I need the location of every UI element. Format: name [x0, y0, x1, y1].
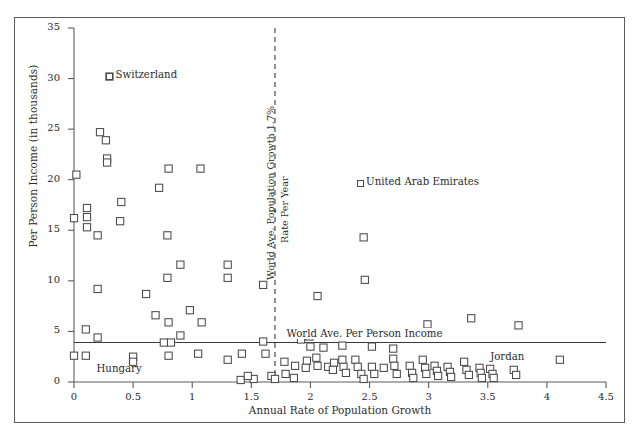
data-point: [380, 364, 387, 371]
annotation-jordan: Jordan: [490, 351, 524, 362]
x-tick-label-2: 1: [172, 391, 212, 402]
data-point: [465, 371, 472, 378]
data-point: [393, 370, 400, 377]
data-point: [339, 356, 346, 363]
data-point: [478, 374, 485, 381]
data-point: [177, 261, 184, 268]
data-point: [423, 370, 430, 377]
data-point: [342, 369, 349, 376]
x-tick-label-1: 0.5: [113, 391, 153, 402]
data-point: [448, 373, 455, 380]
data-point: [156, 184, 163, 191]
data-point: [83, 214, 90, 221]
data-point: [390, 345, 397, 352]
data-point: [262, 350, 269, 357]
x-tick-label-4: 2: [290, 391, 330, 402]
annotation-switzerland: Switzerland: [115, 69, 177, 80]
x-tick-label-6: 3: [409, 391, 449, 402]
data-point: [330, 359, 337, 366]
data-point: [361, 276, 368, 283]
data-point: [291, 362, 298, 369]
data-point: [290, 374, 297, 381]
world-avg-per-person-income-label: World Ave. Per Person Income: [284, 328, 444, 339]
data-point: [164, 274, 171, 281]
world-avg-population-growth-label: World Ave. Population Growth 1.7%: [265, 106, 276, 280]
data-point: [307, 343, 314, 350]
data-point: [461, 358, 468, 365]
scatter-plot: [0, 0, 641, 442]
data-point: [371, 370, 378, 377]
data-point: [354, 363, 361, 370]
data-point: [406, 362, 413, 369]
data-point: [165, 319, 172, 326]
data-point: [102, 137, 109, 144]
data-point: [94, 334, 101, 341]
data-point: [82, 352, 89, 359]
data-point: [104, 159, 111, 166]
data-point: [83, 204, 90, 211]
data-point: [435, 372, 442, 379]
data-point: [352, 356, 359, 363]
data-point: [96, 129, 103, 136]
data-point: [339, 342, 346, 349]
data-point: [167, 339, 174, 346]
data-point: [390, 355, 397, 362]
data-point: [73, 171, 80, 178]
x-tick-label-3: 1.5: [231, 391, 271, 402]
data-point: [197, 165, 204, 172]
annotation-hungary: Hungary: [96, 363, 141, 374]
y-tick-label-7: 35: [28, 21, 60, 32]
data-point: [513, 371, 520, 378]
data-point: [271, 375, 278, 382]
data-point: [224, 274, 231, 281]
data-point: [329, 366, 336, 373]
data-point: [165, 352, 172, 359]
data-point: [313, 354, 320, 361]
data-point: [195, 350, 202, 357]
data-point: [177, 332, 184, 339]
data-point: [117, 218, 124, 225]
data-point: [260, 338, 267, 345]
data-point: [152, 312, 159, 319]
y-tick-label-4: 20: [28, 173, 60, 184]
data-point: [83, 224, 90, 231]
data-point: [556, 356, 563, 363]
x-tick-label-7: 3.5: [468, 391, 508, 402]
data-point: [515, 322, 522, 329]
data-point: [303, 357, 310, 364]
data-point: [186, 307, 193, 314]
data-point: [94, 232, 101, 239]
data-point: [143, 290, 150, 297]
figure-container: Per Person Income (in thousands) Annual …: [0, 0, 641, 442]
x-tick-label-9: 4.5: [586, 391, 626, 402]
annotation-marker-united-arab-emirates: [357, 180, 364, 187]
x-tick-label-8: 4: [527, 391, 567, 402]
data-point: [468, 315, 475, 322]
data-point: [244, 372, 251, 379]
data-point: [368, 363, 375, 370]
data-point: [94, 285, 101, 292]
y-tick-label-6: 30: [28, 72, 60, 83]
data-point: [237, 376, 244, 383]
data-point: [281, 358, 288, 365]
data-point: [224, 261, 231, 268]
data-point: [490, 374, 497, 381]
annotation-marker-switzerland: [106, 73, 113, 80]
data-point: [419, 356, 426, 363]
data-point: [82, 326, 89, 333]
data-point: [165, 165, 172, 172]
annotation-united-arab-emirates: United Arab Emirates: [366, 176, 479, 187]
data-point: [320, 344, 327, 351]
x-tick-label-0: 0: [54, 391, 94, 402]
data-point: [314, 362, 321, 369]
y-tick-label-2: 10: [28, 274, 60, 285]
data-point: [70, 215, 77, 222]
y-tick-label-1: 5: [28, 324, 60, 335]
data-point: [70, 352, 77, 359]
data-point: [391, 362, 398, 369]
data-point: [360, 375, 367, 382]
y-tick-label-0: 0: [28, 375, 60, 386]
data-point: [282, 370, 289, 377]
data-point: [164, 232, 171, 239]
data-point: [118, 198, 125, 205]
